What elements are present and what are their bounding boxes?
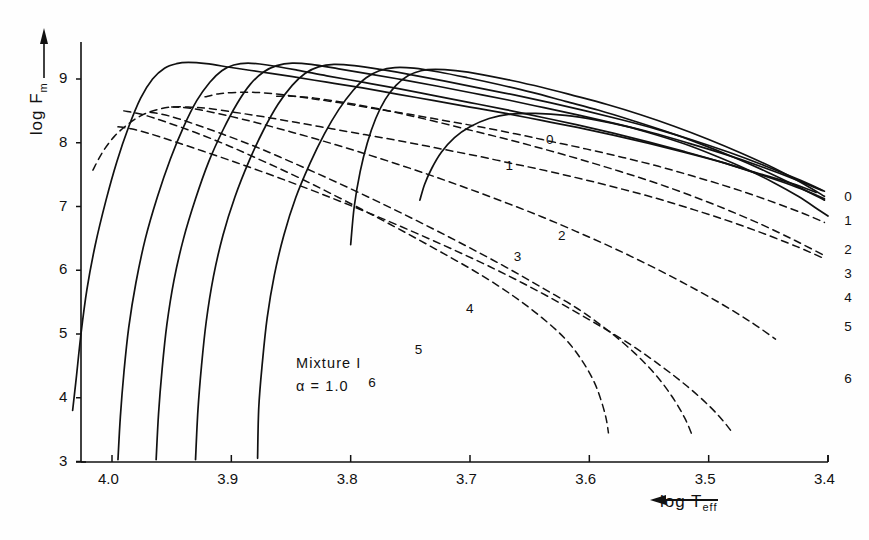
x-tick-label: 3.9 — [217, 470, 238, 487]
curve-label: 2 — [558, 228, 566, 243]
solid-curve — [196, 64, 825, 459]
y-tick-label: 8 — [59, 133, 67, 150]
curve-label: 5 — [415, 342, 423, 357]
dashed-curve — [124, 111, 609, 433]
x-axis-label-sub: eff — [703, 501, 718, 513]
solid-curve — [118, 63, 824, 460]
chart-canvas — [0, 0, 869, 540]
y-tick-label: 9 — [59, 69, 67, 86]
x-tick-label: 4.0 — [98, 470, 119, 487]
curve-label: 3 — [514, 249, 522, 264]
curve-label: 5 — [844, 319, 852, 334]
y-axis-label-sub: m — [37, 82, 49, 92]
annotation-mixture: Mixture I — [296, 352, 362, 375]
curve-label: 3 — [844, 266, 852, 281]
y-axis-label-text: log F — [27, 92, 46, 135]
annotation-alpha: α = 1.0 — [296, 375, 362, 398]
y-tick-label: 3 — [59, 452, 67, 469]
figure-panel: log Fm log Teff Mixture I α = 1.0 345678… — [0, 0, 869, 540]
curve-label: 4 — [466, 301, 474, 316]
x-tick-label: 3.4 — [814, 470, 835, 487]
curve-label: 0 — [546, 132, 554, 147]
x-axis-label: log Teff — [660, 492, 718, 513]
curve-label: 6 — [844, 371, 852, 386]
curve-label: 4 — [844, 290, 852, 305]
axis-direction-arrows — [40, 28, 718, 505]
curve-label: 6 — [368, 375, 376, 390]
curve-label: 2 — [844, 242, 852, 257]
x-tick-label: 3.7 — [456, 470, 477, 487]
x-tick-label: 3.5 — [695, 470, 716, 487]
y-axis-label: log Fm — [27, 57, 48, 161]
y-tick-label: 5 — [59, 324, 67, 341]
x-axis-label-text: log T — [660, 492, 703, 511]
dashed-curve — [118, 127, 733, 433]
y-tick-label: 6 — [59, 260, 67, 277]
axes — [76, 42, 828, 462]
solid-curve — [258, 67, 825, 458]
solid-curve — [351, 69, 825, 244]
curve-label: 1 — [505, 158, 513, 173]
x-tick-label: 3.8 — [337, 470, 358, 487]
curve-label: 1 — [844, 213, 852, 228]
y-axis-label-group: log Fm — [14, 40, 60, 190]
figure-annotation: Mixture I α = 1.0 — [296, 352, 362, 398]
x-tick-label: 3.6 — [575, 470, 596, 487]
curve-label: 0 — [844, 189, 852, 204]
y-tick-label: 4 — [59, 388, 67, 405]
dashed-curve — [150, 112, 692, 435]
y-tick-label: 7 — [59, 197, 67, 214]
curve-group — [73, 62, 828, 459]
